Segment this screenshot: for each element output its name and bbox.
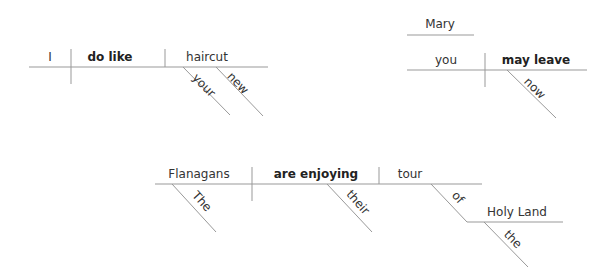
- s3-object: tour: [398, 167, 423, 181]
- s1-object: haircut: [186, 50, 228, 64]
- sentence-diagram: I do like haircut your new Mary you may …: [0, 0, 613, 280]
- s3-prep-object: Holy Land: [487, 205, 547, 219]
- s2-verb: may leave: [502, 53, 571, 67]
- s1-modifier-your: your: [189, 71, 218, 100]
- s3-modifier-their: their: [343, 187, 372, 217]
- s2-modifier-now: now: [521, 74, 549, 102]
- sentence-2: Mary you may leave now: [407, 17, 587, 118]
- s3-preposition-of: of: [449, 188, 468, 207]
- s2-address: Mary: [425, 17, 455, 31]
- sentence-1: I do like haircut your new: [29, 49, 268, 116]
- s3-verb: are enjoying: [274, 167, 358, 181]
- s1-verb: do like: [87, 50, 132, 64]
- sentence-3: Flanagans are enjoying tour The their of…: [155, 167, 563, 267]
- s3-modifier-the-holyland: the: [501, 227, 525, 251]
- s3-modifier-the-flanagans: The: [189, 188, 215, 215]
- s1-subject: I: [48, 50, 52, 64]
- s1-modifier-new: new: [224, 69, 251, 97]
- s3-subject: Flanagans: [168, 167, 229, 181]
- s2-subject: you: [435, 53, 457, 67]
